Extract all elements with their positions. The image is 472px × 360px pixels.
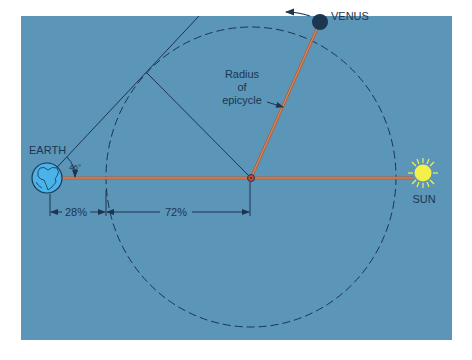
angle-label: 46°: [69, 163, 81, 172]
label-72-percent: 72%: [165, 206, 187, 218]
radius-label-line3: epicycle: [222, 94, 262, 106]
earth-label: EARTH: [29, 144, 66, 156]
radius-label-line1: Radius: [225, 68, 260, 80]
venus-icon: [312, 14, 328, 30]
earth-icon: [32, 163, 62, 193]
venus-label: VENUS: [331, 10, 369, 22]
sun-icon: [408, 158, 438, 188]
sun-label: SUN: [412, 193, 435, 205]
radius-label-line2: of: [237, 81, 247, 93]
label-28-percent: 28%: [65, 206, 87, 218]
orbit-direction-arrow: [286, 12, 310, 16]
epicycle-diagram: 28% 72% 46° EARTH VENUS Radius of epicyc…: [0, 0, 472, 360]
epicycle-center-icon: [248, 175, 255, 182]
